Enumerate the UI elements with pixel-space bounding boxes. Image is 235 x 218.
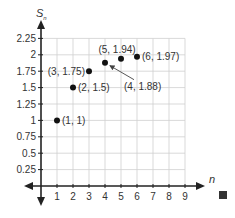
x-tick-label: 3 xyxy=(86,191,92,202)
data-point xyxy=(118,56,124,62)
data-point xyxy=(70,85,76,91)
end-of-proof-square-icon xyxy=(219,191,227,199)
data-points: (1, 1)(2, 1.5)(3, 1.75)(4, 1.88)(5, 1.94… xyxy=(48,44,180,126)
y-tick-label: 2.25 xyxy=(17,33,37,44)
data-point xyxy=(54,117,60,123)
scatter-chart: 1234567890.250.50.7511.251.51.7522.25 n … xyxy=(0,0,235,218)
y-tick-label: 1 xyxy=(30,115,36,126)
y-tick-label: 2 xyxy=(30,49,36,60)
y-tick-label: 1.5 xyxy=(22,82,36,93)
y-axis-title: Sn xyxy=(36,7,47,21)
callout-arrow xyxy=(110,66,134,80)
x-tick-label: 4 xyxy=(102,191,108,202)
point-label: (3, 1.75) xyxy=(48,66,85,77)
point-label: (6, 1.97) xyxy=(142,51,179,62)
point-label: (5, 1.94) xyxy=(98,44,135,55)
point-label: (1, 1) xyxy=(62,115,85,126)
x-tick-label: 5 xyxy=(118,191,124,202)
x-axis-right-arrow-icon xyxy=(196,182,205,190)
y-axis-up-arrow-icon xyxy=(37,20,45,29)
point-label: (2, 1.5) xyxy=(78,82,110,93)
point-label: (4, 1.88) xyxy=(124,81,161,92)
x-tick-label: 9 xyxy=(182,191,188,202)
y-tick-label: 0.5 xyxy=(22,148,36,159)
y-tick-label: 0.25 xyxy=(17,164,37,175)
x-axis-title: n xyxy=(209,173,215,185)
x-axis-left-arrow-icon xyxy=(24,182,33,190)
x-tick-label: 2 xyxy=(70,191,76,202)
data-point xyxy=(134,54,140,60)
x-tick-label: 8 xyxy=(166,191,172,202)
x-tick-label: 7 xyxy=(150,191,156,202)
data-point xyxy=(86,68,92,74)
y-tick-label: 1.25 xyxy=(17,99,37,110)
y-tick-label: 1.75 xyxy=(17,66,37,77)
y-tick-label: 0.75 xyxy=(17,131,37,142)
x-tick-label: 1 xyxy=(54,191,60,202)
axis-titles: n Sn xyxy=(36,7,215,185)
x-tick-label: 6 xyxy=(134,191,140,202)
y-axis-down-arrow-icon xyxy=(37,197,45,206)
data-point xyxy=(102,60,108,66)
